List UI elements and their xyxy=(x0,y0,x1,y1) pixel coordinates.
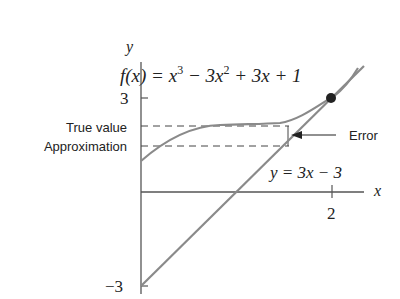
function-label: f(x) = x3 − 3x2 + 3x + 1 xyxy=(120,63,301,87)
y-tick-label-3: 3 xyxy=(120,89,129,108)
linear-approximation-diagram: y x 3 −3 2 f(x) = x3 − 3x2 + 3x + 1 y = … xyxy=(0,0,400,299)
y-tick-label-neg3: −3 xyxy=(105,277,123,296)
approximation-label: Approximation xyxy=(44,139,127,154)
tangent-line-label: y = 3x − 3 xyxy=(268,163,342,182)
tangent-point xyxy=(326,93,336,103)
y-axis-label: y xyxy=(124,38,134,56)
true-value-label: True value xyxy=(66,120,127,135)
error-label: Error xyxy=(349,128,379,143)
x-axis-label: x xyxy=(373,182,381,199)
x-tick-label-2: 2 xyxy=(327,204,336,223)
